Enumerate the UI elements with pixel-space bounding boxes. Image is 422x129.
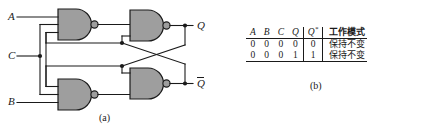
nand-gate-2 <box>130 10 170 41</box>
cell-A: 0 <box>246 39 260 51</box>
logic-circuit-figure: A C B Q Q (a) <box>0 0 211 129</box>
col-header-A: A <box>246 27 260 39</box>
col-header-B: B <box>260 27 274 39</box>
junction-upper-feedback <box>120 41 124 45</box>
cell-Q: 0 <box>288 39 303 51</box>
nand-gate-4 <box>130 68 170 99</box>
junction-lower-feedback <box>120 64 124 68</box>
col-header-Q: Q <box>288 27 303 39</box>
cell-B: 0 <box>260 50 274 62</box>
input-label-B: B <box>8 96 15 107</box>
cell-C: 0 <box>274 39 288 51</box>
circuit-svg <box>0 0 211 129</box>
nand-gate-3 <box>58 79 98 110</box>
input-label-A: A <box>8 11 15 22</box>
col-header-Q-next: Q* <box>303 27 322 39</box>
junction-qbar <box>183 81 187 85</box>
junction-c-bus <box>38 54 42 58</box>
truth-table-figure: A B C Q Q* 工作模式 0 0 0 0 0 保持 <box>211 0 422 129</box>
truth-table: A B C Q Q* 工作模式 0 0 0 0 0 保持 <box>246 27 367 62</box>
cell-Q-next: 1 <box>303 50 322 62</box>
table-row: 0 0 0 1 1 保持不变 <box>246 50 367 62</box>
cell-Q-next: 0 <box>303 39 322 51</box>
junction-q <box>183 23 187 27</box>
caption-b: (b) <box>310 80 322 91</box>
input-label-C: C <box>8 50 15 61</box>
table-header-row: A B C Q Q* 工作模式 <box>246 27 367 39</box>
figure-panel: A C B Q Q (a) A B C Q Q* 工作模式 <box>0 0 422 129</box>
output-label-Q-bar: Q <box>197 78 205 89</box>
cell-mode: 保持不变 <box>323 39 368 51</box>
table-row: 0 0 0 0 0 保持不变 <box>246 39 367 51</box>
cell-Q: 1 <box>288 50 303 62</box>
col-header-mode: 工作模式 <box>323 27 368 39</box>
caption-a: (a) <box>99 112 110 123</box>
cell-mode: 保持不变 <box>323 50 368 62</box>
cell-B: 0 <box>260 39 274 51</box>
nand-gate-1 <box>58 9 98 40</box>
overline-bar <box>197 77 204 78</box>
cell-C: 0 <box>274 50 288 62</box>
col-header-C: C <box>274 27 288 39</box>
output-label-Q: Q <box>197 20 205 31</box>
cell-A: 0 <box>246 50 260 62</box>
